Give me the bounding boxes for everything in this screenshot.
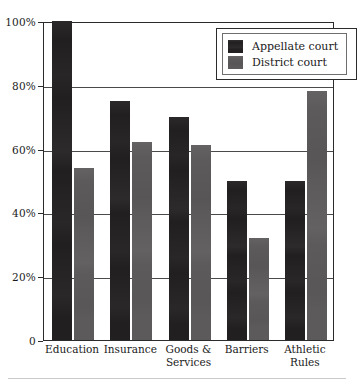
x-tick-label-line: Rules <box>284 356 325 369</box>
legend-item-appellate-court: Appellate court <box>228 38 338 54</box>
x-tick-label: Insurance <box>104 343 157 356</box>
x-tick-label: Barriers <box>225 343 269 356</box>
bar-appellate-court <box>227 181 247 341</box>
x-tick-label: Education <box>45 343 99 356</box>
bar-appellate-court <box>285 181 305 341</box>
plot-area: Appellate court District court <box>43 22 334 341</box>
x-tick-label-line: Insurance <box>104 343 157 356</box>
y-axis: 100%80%60%40%20%0 <box>0 0 43 386</box>
y-tick-label: 40% <box>12 207 36 219</box>
x-tick-label-line: Education <box>45 343 99 356</box>
x-tick-label-line: Services <box>166 356 212 369</box>
bar-district-court <box>249 238 269 340</box>
y-tick-label: 60% <box>12 144 36 156</box>
x-tick-label-line: Athletic <box>284 343 325 356</box>
legend-inner-border: Appellate court District court <box>222 33 347 75</box>
x-tick-label-line: Barriers <box>225 343 269 356</box>
bar-appellate-court <box>169 117 189 340</box>
y-tick-label: 100% <box>5 16 36 28</box>
bar-district-court <box>74 168 94 340</box>
bar-district-court <box>132 142 152 340</box>
footer-divider <box>8 378 346 379</box>
legend-swatch-district-court <box>228 56 243 69</box>
bar-district-court <box>191 145 211 340</box>
chart-legend: Appellate court District court <box>216 28 357 80</box>
y-tick-mark <box>38 341 43 342</box>
x-axis: EducationInsuranceGoods &ServicesBarrier… <box>0 343 354 383</box>
bar-district-court <box>307 91 327 340</box>
legend-label-appellate-court: Appellate court <box>252 40 338 53</box>
x-tick-label-line: Goods & <box>166 343 212 356</box>
legend-label-district-court: District court <box>252 56 327 69</box>
x-tick-label: AthleticRules <box>284 343 325 368</box>
legend-swatch-appellate-court <box>228 40 243 53</box>
x-tick-label: Goods &Services <box>166 343 212 368</box>
y-tick-label: 80% <box>12 80 36 92</box>
y-tick-label: 20% <box>12 271 36 283</box>
legend-item-district-court: District court <box>228 54 338 70</box>
bar-appellate-court <box>110 101 130 340</box>
bar-appellate-court <box>52 21 72 340</box>
